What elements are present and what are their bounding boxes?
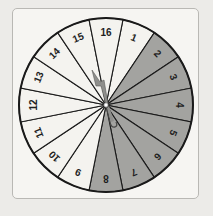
spinner: 12345678910111213141516	[0, 0, 213, 216]
sector-label-8: 8	[103, 173, 109, 184]
sector-label-4: 4	[174, 102, 185, 108]
sector-label-12: 12	[28, 99, 39, 111]
spinner-hub	[104, 103, 108, 107]
sector-label-16: 16	[100, 27, 112, 38]
